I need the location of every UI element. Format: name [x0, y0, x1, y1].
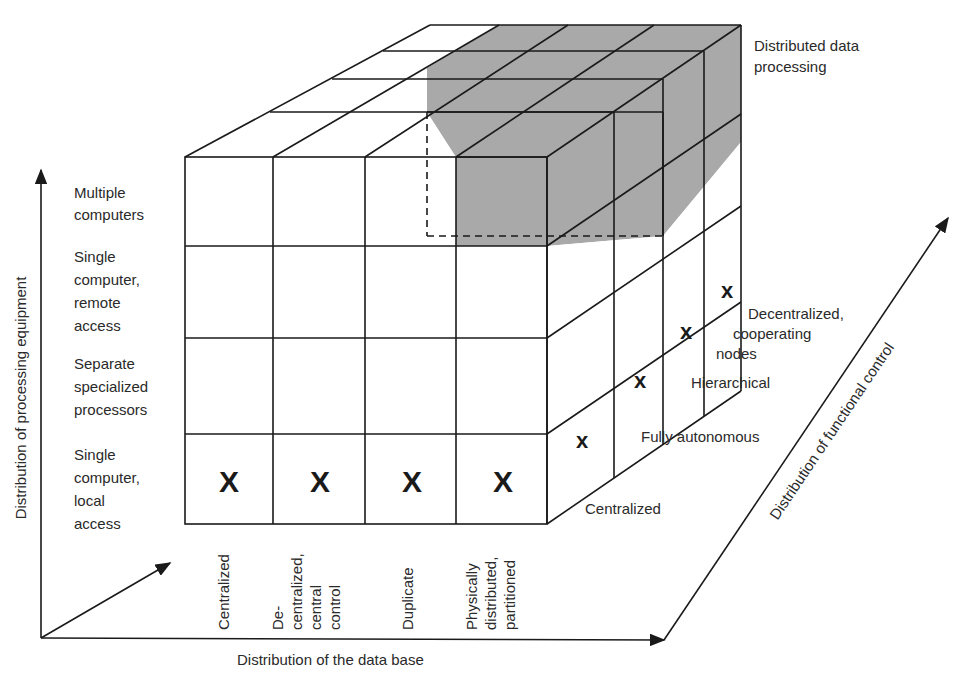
svg-text:centralized,: centralized, [288, 553, 305, 630]
svg-text:Duplicate: Duplicate [399, 567, 416, 630]
processing-equipment-labels: Multiple computers Single computer, remo… [74, 184, 148, 532]
level-single-computer-local: Single computer, local access [74, 446, 140, 532]
svg-text:partitioned: partitioned [501, 560, 518, 630]
svg-text:local: local [74, 492, 105, 509]
svg-text:cooperating: cooperating [733, 325, 811, 342]
level-single-computer-remote: Single computer, remote access [74, 248, 140, 334]
mark-x: X [493, 465, 513, 498]
svg-text:Single: Single [74, 248, 116, 265]
svg-text:Centralized: Centralized [215, 554, 232, 630]
title-label: Distributed data processing [754, 37, 860, 75]
svg-text:Decentralized,: Decentralized, [748, 305, 844, 322]
level-multiple-computers: Multiple computers [74, 184, 144, 223]
svg-text:Physically: Physically [463, 563, 480, 630]
svg-text:computer,: computer, [74, 271, 140, 288]
vertical-axis-label: Distribution of processing equipment [12, 276, 29, 519]
mark-x: x [634, 368, 647, 393]
svg-text:control: control [326, 585, 343, 630]
horizontal-axis-arrow [41, 638, 664, 640]
svg-text:distributed,: distributed, [482, 557, 499, 630]
svg-text:Multiple: Multiple [74, 184, 126, 201]
svg-text:De-: De- [269, 606, 286, 630]
svg-text:access: access [74, 317, 121, 334]
svg-text:central: central [307, 585, 324, 630]
level-separate-specialized: Separate specialized processors [74, 355, 148, 418]
mark-x: x [721, 278, 734, 303]
svg-text:computer,: computer, [74, 469, 140, 486]
mark-x: X [219, 465, 239, 498]
svg-text:Hierarchical: Hierarchical [691, 374, 770, 391]
svg-text:specialized: specialized [74, 378, 148, 395]
svg-text:processing: processing [754, 58, 827, 75]
front-row-marks: X X X X [219, 465, 513, 498]
distributed-processing-cube-diagram: X X X X x x x x Distributed data process… [0, 0, 964, 678]
depth-axis-label: Distribution of functional control [766, 339, 897, 522]
svg-text:Distributed data: Distributed data [754, 37, 860, 54]
svg-text:Centralized: Centralized [585, 500, 661, 517]
mark-x: X [310, 465, 330, 498]
horizontal-axis-label: Distribution of the data base [237, 651, 424, 668]
svg-text:access: access [74, 515, 121, 532]
svg-text:Fully autonomous: Fully autonomous [641, 428, 759, 445]
shaded-distributed-region [185, 25, 741, 524]
svg-text:remote: remote [74, 294, 121, 311]
mark-x: x [576, 428, 589, 453]
svg-text:computers: computers [74, 206, 144, 223]
svg-text:Single: Single [74, 446, 116, 463]
mark-x: X [402, 465, 422, 498]
mark-x: x [680, 319, 693, 344]
svg-text:processors: processors [74, 401, 147, 418]
svg-text:Separate: Separate [74, 355, 135, 372]
data-base-labels: Centralized De- centralized, central con… [215, 553, 518, 630]
svg-text:nodes: nodes [716, 345, 757, 362]
inner-diagonal-arrow [41, 563, 170, 638]
